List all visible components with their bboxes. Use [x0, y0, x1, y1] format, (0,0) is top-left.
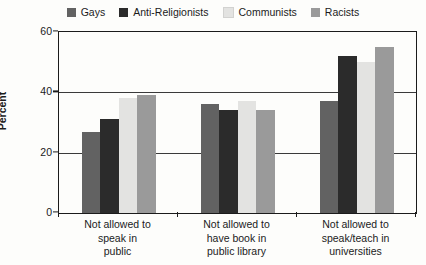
chart-legend: GaysAnti-ReligionistsCommunistsRacists	[0, 3, 426, 21]
legend-item-anti-religionists[interactable]: Anti-Religionists	[119, 7, 208, 18]
bar	[338, 56, 357, 213]
x-category-label-line: speak/teach in	[296, 232, 415, 246]
bar	[256, 110, 275, 213]
bar	[201, 104, 220, 213]
y-tick-label: 0	[32, 207, 52, 218]
x-category-label: Not allowed tospeak inpublic	[58, 218, 177, 259]
legend-label: Racists	[325, 7, 359, 18]
x-category-label-line: Not allowed to	[296, 218, 415, 232]
x-tick-mark	[58, 212, 59, 217]
bar	[219, 110, 238, 213]
y-tick-label: 40	[32, 86, 52, 97]
bar	[137, 95, 156, 213]
legend-swatch-icon	[67, 8, 76, 17]
x-category-label-line: public library	[177, 245, 296, 259]
x-tick-mark	[177, 212, 178, 217]
bar	[375, 47, 394, 213]
x-tick-mark	[415, 212, 416, 217]
x-category-label: Not allowed tohave book inpublic library	[177, 218, 296, 259]
x-category-label-line: universities	[296, 245, 415, 259]
bar-chart: GaysAnti-ReligionistsCommunistsRacists P…	[0, 0, 426, 265]
legend-item-gays[interactable]: Gays	[67, 7, 106, 18]
legend-label: Anti-Religionists	[133, 7, 208, 18]
x-category-label-line: Not allowed to	[177, 218, 296, 232]
x-category-label: Not allowed tospeak/teach inuniversities	[296, 218, 415, 259]
legend-item-communists[interactable]: Communists	[223, 7, 297, 18]
bar	[320, 101, 339, 213]
y-tick-label: 60	[32, 26, 52, 37]
x-category-label-line: Not allowed to	[58, 218, 177, 232]
bar	[238, 101, 257, 213]
y-axis-tick-labels: 0204060	[26, 0, 52, 265]
y-tick-label: 20	[32, 146, 52, 157]
legend-swatch-icon	[119, 8, 128, 17]
legend-item-racists[interactable]: Racists	[311, 7, 359, 18]
bars-layer	[59, 32, 416, 213]
legend-label: Communists	[239, 7, 297, 18]
bar	[100, 119, 119, 213]
legend-label: Gays	[81, 7, 106, 18]
legend-swatch-icon	[223, 7, 234, 18]
x-category-label-line: have book in	[177, 232, 296, 246]
bar	[119, 98, 138, 213]
y-axis-title: Percent	[0, 92, 8, 131]
legend-swatch-icon	[311, 8, 320, 17]
x-category-label-line: public	[58, 245, 177, 259]
plot-area	[58, 31, 417, 214]
bar	[357, 62, 376, 213]
x-tick-mark	[296, 212, 297, 217]
bar	[82, 132, 101, 213]
x-category-label-line: speak in	[58, 232, 177, 246]
